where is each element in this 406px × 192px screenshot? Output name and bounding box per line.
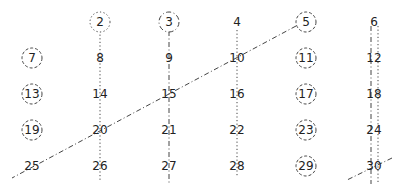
number-cell: 18 bbox=[359, 85, 389, 103]
number-cell: 20 bbox=[85, 121, 115, 139]
number-cell: 9 bbox=[154, 49, 184, 67]
number-cell: 30 bbox=[359, 157, 389, 175]
number-cell: 5 bbox=[291, 13, 321, 31]
number-cell: 7 bbox=[17, 49, 47, 67]
number-cell: 11 bbox=[291, 49, 321, 67]
number-cell: 21 bbox=[154, 121, 184, 139]
number-cell: 8 bbox=[85, 49, 115, 67]
number-cell: 3 bbox=[154, 13, 184, 31]
number-cell: 28 bbox=[222, 157, 252, 175]
number-cell: 19 bbox=[17, 121, 47, 139]
number-cell: 22 bbox=[222, 121, 252, 139]
number-cell: 14 bbox=[85, 85, 115, 103]
number-cell: 6 bbox=[359, 13, 389, 31]
number-cell: 4 bbox=[222, 13, 252, 31]
number-cell: 12 bbox=[359, 49, 389, 67]
strike-lines bbox=[12, 26, 392, 184]
number-cell: 29 bbox=[291, 157, 321, 175]
number-cell: 13 bbox=[17, 85, 47, 103]
number-cell: 26 bbox=[85, 157, 115, 175]
number-cell: 23 bbox=[291, 121, 321, 139]
number-cell: 15 bbox=[154, 85, 184, 103]
number-cell: 17 bbox=[291, 85, 321, 103]
number-cell: 16 bbox=[222, 85, 252, 103]
number-cell: 10 bbox=[222, 49, 252, 67]
number-cell: 24 bbox=[359, 121, 389, 139]
sieve-diagram bbox=[0, 0, 406, 192]
number-cell: 2 bbox=[85, 13, 115, 31]
number-cell: 27 bbox=[154, 157, 184, 175]
number-cell: 25 bbox=[17, 157, 47, 175]
